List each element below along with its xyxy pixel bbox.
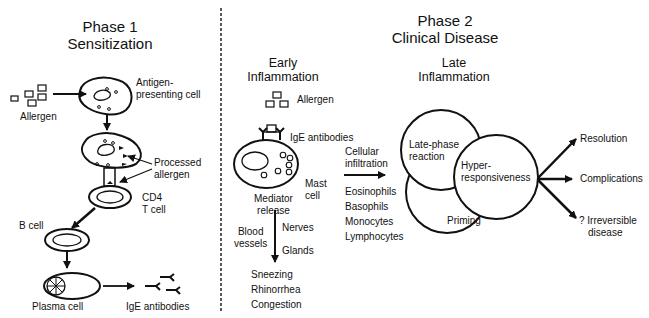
label-cd4-t-cell: CD4 T cell xyxy=(142,192,166,216)
symptoms-list: Sneezing Rhinorrhea Congestion xyxy=(251,267,302,312)
outcome-irreversible-disease: ? Irreversible disease xyxy=(579,215,637,239)
label-priming: Priming xyxy=(447,215,481,227)
label-blood-vessels: Blood vessels xyxy=(234,226,267,250)
outcome-complications: Complications xyxy=(580,173,643,185)
phase2-title: Phase 2 Clinical Disease xyxy=(385,12,505,46)
phase1-title: Phase 1 Sensitization xyxy=(40,18,180,52)
label-glands: Glands xyxy=(282,245,314,257)
early-allergen-icon xyxy=(266,92,288,107)
allergen-icon xyxy=(11,85,46,106)
label-hyperresponsiveness: Hyper- responsiveness xyxy=(461,160,530,184)
label-processed-allergen: Processed allergen xyxy=(154,157,201,181)
label-nerves: Nerves xyxy=(282,222,314,234)
label-early-allergen: Allergen xyxy=(297,94,334,106)
cd4-t-cell-icon xyxy=(89,186,131,208)
label-early-ige: IgE antibodies xyxy=(290,132,353,144)
antigen-presenting-cell-icon xyxy=(79,78,131,115)
label-b-cell: B cell xyxy=(19,220,43,232)
label-late-phase-reaction: Late-phase reaction xyxy=(409,139,459,163)
b-cell-icon xyxy=(45,229,89,251)
apc-processed-icon xyxy=(82,133,141,186)
label-cellular-infiltration: Cellular infiltration xyxy=(345,146,388,170)
label-apc: Antigen- presenting cell xyxy=(136,77,200,101)
label-allergen: Allergen xyxy=(20,111,57,123)
label-mast-cell: Mast cell xyxy=(305,178,327,202)
outcome-resolution: Resolution xyxy=(580,133,627,145)
label-mediator-release: Mediator release xyxy=(254,193,293,217)
mast-cell-icon xyxy=(234,125,298,188)
ige-antibodies-icon xyxy=(145,274,180,294)
label-plasma-cell: Plasma cell xyxy=(32,301,83,313)
plasma-cell-icon xyxy=(44,273,100,299)
infiltrating-cells-list: Eosinophils Basophils Monocytes Lymphocy… xyxy=(345,184,404,244)
early-inflammation-title: Early Inflammation xyxy=(244,56,322,84)
label-ige-antibodies: IgE antibodies xyxy=(126,301,189,313)
late-inflammation-title: Late Inflammation xyxy=(415,56,493,84)
